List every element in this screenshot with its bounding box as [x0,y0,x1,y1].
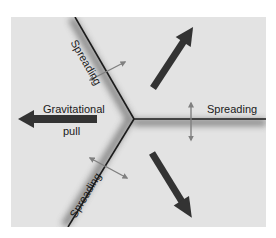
label-pull: pull [63,126,80,137]
label-gravitational: Gravitational [43,104,105,115]
triple-junction-diagram: Spreading Spreading Spreading Gravitatio… [0,0,276,238]
label-spreading-right: Spreading [207,104,257,115]
diagram-canvas [0,0,276,238]
